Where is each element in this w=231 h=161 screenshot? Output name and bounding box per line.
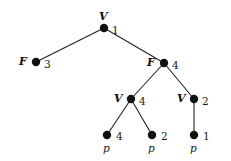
tree-node-dot: [160, 59, 168, 67]
node-value-label: 4: [116, 131, 123, 142]
node-value-label: 2: [161, 131, 168, 142]
node-value-label: 3: [44, 59, 51, 70]
tree-node-dot: [148, 131, 156, 139]
node-type-label: V: [114, 93, 123, 104]
leaf-subscript-label: p: [148, 143, 155, 154]
tree-diagram: V1F3F4V4V24p2p1p: [0, 0, 231, 161]
node-value-label: 4: [172, 60, 179, 71]
tree-node-dot: [100, 24, 108, 32]
node-type-label: V: [99, 11, 108, 22]
node-type-label: V: [177, 93, 186, 104]
node-type-label: F: [147, 57, 155, 68]
node-type-label: F: [19, 56, 27, 67]
tree-node-dot: [190, 95, 198, 103]
node-value-label: 2: [202, 96, 209, 107]
tree-node-dot: [127, 95, 135, 103]
node-value-label: 1: [203, 131, 210, 142]
node-value-label: 1: [112, 25, 119, 36]
tree-edge: [36, 28, 104, 62]
tree-node-dot: [190, 131, 198, 139]
leaf-subscript-label: p: [103, 143, 110, 154]
node-value-label: 4: [139, 96, 146, 107]
tree-node-dot: [103, 131, 111, 139]
edge-layer: [36, 28, 194, 135]
node-layer: [32, 24, 198, 139]
tree-node-dot: [32, 58, 40, 66]
leaf-subscript-label: p: [190, 143, 197, 154]
